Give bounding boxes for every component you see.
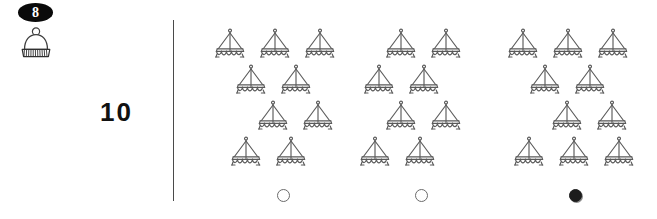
- sailboat-icon: [550, 28, 586, 62]
- sailboat-icon: [357, 136, 393, 170]
- sailboat-icon: [255, 100, 291, 134]
- sailboat-icon: [228, 136, 264, 170]
- boat-row: [383, 100, 464, 136]
- boat-row: [527, 64, 608, 100]
- sailboat-icon: [273, 136, 309, 170]
- boat-row: [549, 100, 630, 136]
- sailboat-icon: [383, 28, 419, 62]
- sailboat-icon: [212, 28, 248, 62]
- boat-row: [505, 28, 631, 64]
- sailboat-icon: [402, 136, 438, 170]
- sailboat-icon: [511, 136, 547, 170]
- sailboat-icon: [406, 64, 442, 98]
- boat-row: [511, 136, 637, 172]
- sailboat-icon: [556, 136, 592, 170]
- sailboat-icon: [428, 100, 464, 134]
- winter-hat-icon: [19, 27, 53, 59]
- sailboat-icon: [595, 28, 631, 62]
- sailboat-icon: [361, 64, 397, 98]
- sailboat-icon: [601, 136, 637, 170]
- sailboat-icon: [278, 64, 314, 98]
- sailboat-icon: [594, 100, 630, 134]
- sailboat-icon: [233, 64, 269, 98]
- sailboat-icon: [302, 28, 338, 62]
- boat-row: [357, 136, 438, 172]
- boat-row: [383, 28, 464, 64]
- sailboat-icon: [527, 64, 563, 98]
- radio-selected-icon[interactable]: [569, 189, 582, 202]
- sailboat-icon: [549, 100, 585, 134]
- sailboat-icon: [428, 28, 464, 62]
- sailboat-icon: [572, 64, 608, 98]
- radio-unselected-icon[interactable]: [415, 189, 428, 202]
- sailboat-icon: [383, 100, 419, 134]
- vertical-divider: [173, 20, 174, 201]
- boat-row: [233, 64, 314, 100]
- boat-row: [212, 28, 338, 64]
- page-number-badge: 8: [18, 3, 53, 22]
- boat-row: [228, 136, 309, 172]
- sailboat-icon: [300, 100, 336, 134]
- radio-unselected-icon[interactable]: [277, 189, 290, 202]
- boat-row: [255, 100, 336, 136]
- worksheet-page: 8: [0, 0, 657, 219]
- exercise-number: 10: [100, 97, 160, 127]
- page-header-panel: 8: [0, 0, 173, 219]
- sailboat-icon: [505, 28, 541, 62]
- sailboat-icon: [257, 28, 293, 62]
- boat-row: [361, 64, 442, 100]
